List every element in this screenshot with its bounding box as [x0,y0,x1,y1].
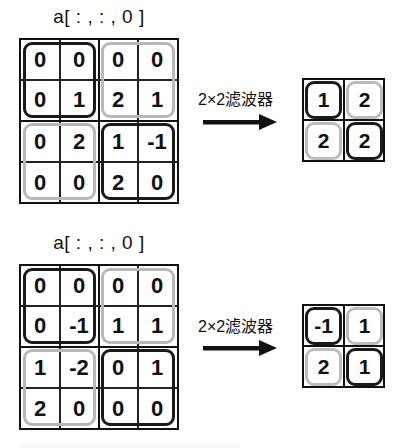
matrix-cell: 0 [138,163,176,202]
matrix-cell: 0 [60,389,98,428]
matrix-cell: 1 [138,348,176,387]
matrix-cell: -1 [138,122,176,161]
matrix-cell: 1 [138,306,176,346]
output-cell: 2 [346,81,383,119]
matrix-cell: 0 [60,163,98,202]
matrix-cell: 0 [21,40,59,79]
matrix-cell: 2 [99,80,137,120]
matrix-cell: 0 [60,266,98,305]
panel-1-input-matrix: 0 0 0 0 0 1 2 1 0 2 1 -1 0 0 2 0 [19,38,179,204]
panel-1-output-matrix: 1 2 2 2 [302,78,385,162]
matrix-cell: 1 [60,80,98,120]
matrix-cell: 0 [99,348,137,387]
matrix-cell: 0 [21,306,59,346]
panel-2-filter-label: 2×2滤波器 [198,313,273,337]
matrix-cell: 0 [21,266,59,305]
matrix-cell: 2 [21,389,59,428]
matrix-cell: 1 [99,306,137,346]
grid-line [304,345,383,347]
output-cell: 1 [346,307,383,345]
matrix-cell: 2 [99,163,137,202]
output-cell: 2 [346,122,383,160]
matrix-cell: 0 [21,122,59,161]
output-cell: -1 [305,307,342,345]
panel-2-title: a[ : , : , 0 ] [20,232,178,254]
matrix-cell: 0 [99,40,137,79]
grid-line [304,119,383,121]
matrix-cell: 2 [60,122,98,161]
cropped-caption [20,442,240,448]
matrix-cell: 0 [21,80,59,120]
matrix-cell: 0 [138,40,176,79]
matrix-cell: -2 [60,348,98,387]
arrow-right-icon [203,340,277,356]
matrix-cell: 0 [21,163,59,202]
matrix-cell: 0 [138,266,176,305]
panel-2-input-matrix: 0 0 0 0 0 -1 1 1 1 -2 0 1 2 0 0 0 [19,264,179,430]
matrix-cell: -1 [60,306,98,346]
matrix-cell: 0 [60,40,98,79]
panel-1-filter-label: 2×2滤波器 [198,86,273,110]
matrix-cell: 0 [138,389,176,428]
output-cell: 2 [305,348,342,386]
matrix-cell: 1 [99,122,137,161]
panel-2-output-matrix: -1 1 2 1 [302,304,385,388]
matrix-cell: 0 [99,266,137,305]
panel-1-title: a[ : , : , 0 ] [20,6,178,28]
output-cell: 2 [305,122,342,160]
matrix-cell: 1 [21,348,59,387]
matrix-cell: 0 [99,389,137,428]
arrow-right-icon [203,114,277,130]
output-cell: 1 [346,348,383,386]
output-cell: 1 [305,81,342,119]
matrix-cell: 1 [138,80,176,120]
